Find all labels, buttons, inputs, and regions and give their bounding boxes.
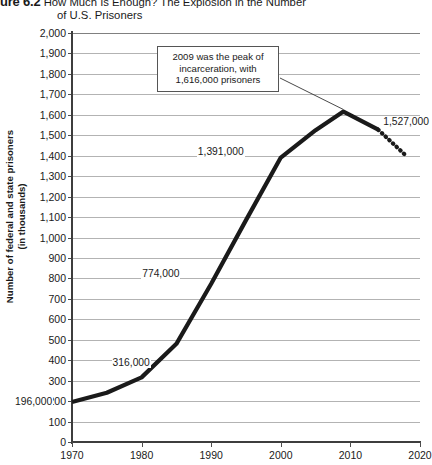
data-point-label: 1,391,000 — [197, 146, 245, 157]
data-point-label: 1,527,000 — [382, 116, 430, 127]
data-point-label: 196,000 — [14, 396, 53, 407]
data-point-label: 316,000 — [112, 357, 151, 368]
callout-leader-line — [280, 78, 343, 110]
line-chart: Number of federal and state prisoners (i… — [0, 0, 432, 465]
data-point-label: 774,000 — [141, 268, 180, 279]
peak-annotation-callout: 2009 was the peak of incarceration, with… — [157, 46, 279, 92]
